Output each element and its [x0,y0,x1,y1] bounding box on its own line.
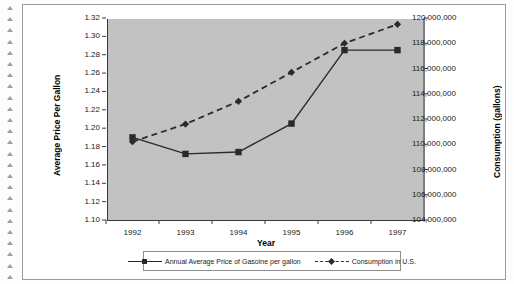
scan-artifact-mark [7,96,13,100]
scan-artifact-mark [7,129,13,133]
legend-label-price: Annual Average Price of Gasoine per gall… [165,258,301,265]
y-axis-left-tick: 1.12 [60,198,100,206]
scan-artifact-mark [7,62,13,66]
scan-artifact-mark [7,208,13,212]
x-axis-tick: 1995 [272,229,312,237]
x-axis-tick: 1996 [325,229,365,237]
chart-legend: Annual Average Price of Gasoine per gall… [143,251,401,271]
scan-artifact-mark [7,196,13,200]
x-axis-tick: 1994 [219,229,259,237]
plot-area [107,19,425,221]
x-axis-tick: 1997 [378,229,418,237]
scan-artifact-mark [7,174,13,178]
scan-artifact-marks [0,0,22,284]
x-axis-title: Year [206,239,326,248]
scan-artifact-mark [7,219,13,223]
y-axis-right-tick: 120,000,000 [412,14,472,22]
y-axis-right-tick: 104,000,000 [412,216,472,224]
y-axis-right-title: Consumption (gallons) [493,57,507,207]
scan-artifact-mark [7,17,13,21]
scan-artifact-mark [7,118,13,122]
x-axis-tick: 1992 [113,229,153,237]
scan-artifact-mark [7,51,13,55]
legend-label-consumption: Consumption in U.S. [352,258,416,265]
y-axis-left-tick: 1.10 [60,216,100,224]
x-axis-tick: 1993 [166,229,206,237]
scan-artifact-mark [7,163,13,167]
scan-artifact-mark [7,252,13,256]
scan-artifact-mark [7,6,13,10]
scan-artifact-mark [7,107,13,111]
y-axis-left-tick: 1.14 [60,179,100,187]
y-axis-left-tick: 1.32 [60,14,100,22]
scan-artifact-mark [7,185,13,189]
y-axis-left-tick: 1.28 [60,51,100,59]
diamond-marker-icon [315,257,349,266]
scan-artifact-mark [7,28,13,32]
legend-item-consumption: Consumption in U.S. [315,257,416,266]
y-axis-right-tick: 116,000,000 [412,65,472,73]
y-axis-left-tick: 1.22 [60,106,100,114]
y-axis-left-tick: 1.30 [60,32,100,40]
scan-artifact-mark [7,152,13,156]
y-axis-right-tick: 108,000,000 [412,166,472,174]
square-marker-icon [128,257,162,266]
scan-artifact-mark [7,275,13,279]
y-axis-right-tick: 106,000,000 [412,191,472,199]
scan-artifact-mark [7,230,13,234]
y-axis-left-tick: 1.16 [60,161,100,169]
y-axis-left-tick: 1.20 [60,124,100,132]
scan-artifact-mark [7,73,13,77]
y-axis-right-tick: 110,000,000 [412,140,472,148]
y-axis-right-tick: 118,000,000 [412,39,472,47]
y-axis-right-tick: 112,000,000 [412,115,472,123]
y-axis-left-tick: 1.24 [60,87,100,95]
y-axis-left-tick: 1.18 [60,143,100,151]
scan-artifact-mark [7,140,13,144]
y-axis-right-tick: 114,000,000 [412,90,472,98]
scan-artifact-mark [7,84,13,88]
scan-artifact-mark [7,40,13,44]
scan-artifact-mark [7,264,13,268]
scan-artifact-mark [7,241,13,245]
legend-item-price: Annual Average Price of Gasoine per gall… [128,257,301,266]
y-axis-left-tick: 1.26 [60,69,100,77]
